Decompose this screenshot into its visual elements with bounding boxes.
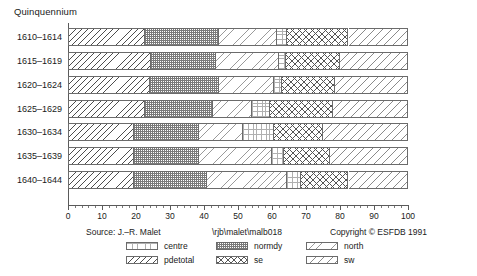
bar-segment-north (216, 52, 279, 70)
bar-segment-centre (272, 147, 284, 165)
legend-label: sw (344, 256, 354, 265)
x-axis-minor-tick (177, 206, 178, 208)
legend-item-centre[interactable]: centre (126, 241, 188, 251)
bar-segment-se (282, 76, 335, 94)
x-axis-minor-tick (116, 206, 117, 208)
bar-segment-pdetotal (68, 28, 145, 46)
x-axis-tick-label: 10 (97, 211, 106, 221)
bar-row: 1640–1644 (68, 171, 408, 189)
category-label: 1630–1634 (17, 127, 62, 137)
bar-segment-sw (323, 123, 408, 141)
x-axis-minor-tick (143, 206, 144, 208)
x-axis-tick-label: 0 (66, 211, 71, 221)
bar-row: 1615–1619 (68, 52, 408, 70)
bar-segment-centre (277, 28, 287, 46)
bar-segment-north (207, 171, 287, 189)
bar-segment-centre (252, 100, 271, 118)
x-axis-minor-tick (190, 206, 191, 208)
x-axis-tick-label: 30 (165, 211, 174, 221)
bar-segment-se (274, 123, 323, 141)
legend-swatch-normdy (216, 242, 248, 250)
category-label: 1620–1624 (17, 80, 62, 90)
category-label: 1625–1629 (17, 104, 62, 114)
x-axis-minor-tick (211, 206, 212, 208)
bar-segment-sw (349, 28, 409, 46)
bar-segment-centre (287, 171, 301, 189)
bar-row: 1620–1624 (68, 76, 408, 94)
x-axis-tick-label: 60 (267, 211, 276, 221)
x-axis-tick-label: 100 (401, 211, 415, 221)
bar-segment-centre (279, 52, 286, 70)
category-label: 1615–1619 (17, 56, 62, 66)
footer-copyright: Copyright © ESFDB 1991 (330, 227, 427, 237)
x-axis-minor-tick (150, 206, 151, 208)
legend-label: north (344, 242, 363, 251)
x-axis-minor-tick (82, 206, 83, 208)
x-axis-minor-tick (360, 206, 361, 208)
x-axis-tick-label: 90 (369, 211, 378, 221)
bar-segment-pdetotal (68, 76, 150, 94)
bar-segment-normdy (145, 28, 220, 46)
bar-segment-pdetotal (68, 123, 134, 141)
bar-row: 1625–1629 (68, 100, 408, 118)
bar-segment-sw (335, 76, 408, 94)
legend-swatch-pdetotal (126, 256, 158, 264)
category-label: 1635–1639 (17, 151, 62, 161)
x-axis-tick (306, 206, 307, 210)
x-axis-minor-tick (163, 206, 164, 208)
x-axis-minor-tick (347, 206, 348, 208)
x-axis-minor-tick (184, 206, 185, 208)
x-axis-minor-tick (286, 206, 287, 208)
x-axis-minor-tick (197, 206, 198, 208)
bar-segment-normdy (134, 171, 207, 189)
x-axis-minor-tick (401, 206, 402, 208)
x-axis-tick (408, 206, 409, 210)
legend-swatch-se (216, 256, 248, 264)
bar-segment-north (199, 123, 243, 141)
bar-row: 1630–1634 (68, 123, 408, 141)
legend-swatch-sw (306, 256, 338, 264)
bar-segment-centre (274, 76, 283, 94)
bar-segment-se (287, 28, 348, 46)
stacked-bar (68, 28, 408, 46)
x-axis-minor-tick (299, 206, 300, 208)
x-axis-scale: 0102030405060708090100 (68, 206, 409, 226)
legend-label: centre (164, 242, 188, 251)
x-axis-tick (136, 206, 137, 210)
x-axis-minor-tick (231, 206, 232, 208)
bar-segment-se (284, 147, 330, 165)
legend-label: se (254, 256, 263, 265)
bar-segment-pdetotal (68, 171, 134, 189)
page-title: Quinquennium (14, 6, 77, 17)
footer-source: Source: J.–R. Malet (86, 227, 161, 237)
x-axis-minor-tick (381, 206, 382, 208)
legend-item-north[interactable]: north (306, 241, 363, 251)
bar-row: 1635–1639 (68, 147, 408, 165)
x-axis-tick (238, 206, 239, 210)
legend-item-normdy[interactable]: normdy (216, 241, 282, 251)
bar-segment-sw (333, 100, 408, 118)
x-axis-minor-tick (95, 206, 96, 208)
stacked-bar (68, 147, 408, 165)
legend-item-sw[interactable]: sw (306, 255, 354, 265)
bar-segment-se (286, 52, 340, 70)
x-axis-minor-tick (333, 206, 334, 208)
bar-segment-north (199, 147, 272, 165)
x-axis-minor-tick (265, 206, 266, 208)
bar-segment-north (219, 28, 277, 46)
footer: Source: J.–R. Malet \rjb\malet\malb018 C… (0, 227, 477, 239)
x-axis-tick (374, 206, 375, 210)
stacked-bar (68, 171, 408, 189)
stacked-bar (68, 52, 408, 70)
bar-segment-normdy (150, 76, 220, 94)
x-axis-tick (170, 206, 171, 210)
x-axis-minor-tick (313, 206, 314, 208)
bar-segment-normdy (145, 100, 213, 118)
x-axis-tick-label: 50 (233, 211, 242, 221)
x-axis-minor-tick (122, 206, 123, 208)
legend-item-pdetotal[interactable]: pdetotal (126, 255, 194, 265)
legend-item-se[interactable]: se (216, 255, 263, 265)
x-axis-tick (68, 206, 69, 210)
bar-segment-sw (340, 52, 408, 70)
x-axis-minor-tick (129, 206, 130, 208)
